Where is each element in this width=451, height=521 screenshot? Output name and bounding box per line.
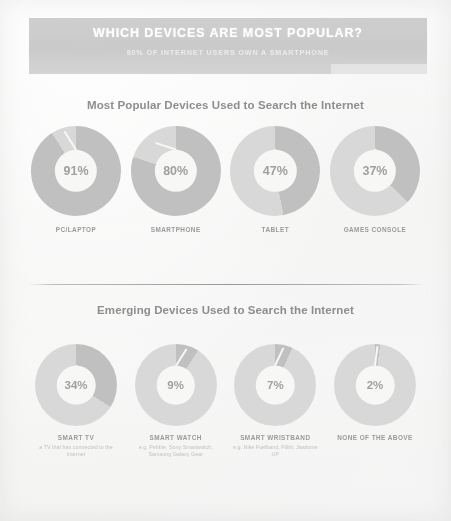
donut-center: 91%: [55, 150, 97, 192]
donut-label-smart-watch: SMART WATCH: [149, 434, 201, 441]
donut-label-games-console: GAMES CONSOLE: [344, 226, 407, 233]
donut-sublabel-smart-wristband: e.g. Nike Fuelband, Fitbit, Jawbone UP: [231, 444, 319, 458]
donut-value-label: 37%: [362, 164, 387, 178]
donut-notch: [175, 349, 187, 367]
donut-notch: [64, 131, 77, 150]
donut-cell-smartphone: 80% SMARTPHONE: [130, 126, 222, 233]
donut-cell-none-of-the-above: 2% NONE OF THE ABOVE: [329, 344, 421, 458]
donut-center: 7%: [256, 366, 295, 405]
donut-cell-pc-laptop: 91% PC/LAPTOP: [30, 126, 122, 233]
donut-label-smartphone: SMARTPHONE: [151, 226, 201, 233]
donut-cell-games-console: 37% GAMES CONSOLE: [329, 126, 421, 233]
donut-value-label: 80%: [163, 164, 188, 178]
donut-notch: [374, 346, 378, 366]
donut-center: 47%: [254, 150, 296, 192]
donut-value-label: 34%: [64, 379, 87, 391]
donut-center: 34%: [57, 366, 96, 405]
header-title: WHICH DEVICES ARE MOST POPULAR?: [29, 26, 427, 40]
donut-chart-tablet: 47%: [230, 126, 320, 216]
donut-chart-smartphone: 80%: [131, 126, 221, 216]
donut-chart-games-console: 37%: [330, 126, 420, 216]
donut-cell-tablet: 47% TABLET: [229, 126, 321, 233]
donut-value-label: 2%: [367, 379, 384, 391]
section-heading-popular: Most Popular Devices Used to Search the …: [0, 99, 451, 111]
donut-notch: [274, 347, 284, 366]
donut-value-label: 9%: [167, 379, 184, 391]
donut-chart-smart-wristband: 7%: [234, 344, 316, 426]
donut-label-none-of-the-above: NONE OF THE ABOVE: [337, 434, 413, 441]
donut-center: 80%: [155, 150, 197, 192]
donut-chart-smart-tv: 34%: [35, 344, 117, 426]
header-subtitle: 80% OF INTERNET USERS OWN A SMARTPHONE: [29, 48, 427, 57]
donut-label-smart-tv: SMART TV: [58, 434, 94, 441]
donut-value-label: 91%: [63, 164, 88, 178]
donut-center: 2%: [356, 366, 395, 405]
donut-label-smart-wristband: SMART WRISTBAND: [240, 434, 310, 441]
donut-value-label: 7%: [267, 379, 284, 391]
donut-sublabel-smart-tv: a TV that has connected to the Internet: [32, 444, 120, 458]
donut-chart-pc-laptop: 91%: [31, 126, 121, 216]
donut-center: 9%: [156, 366, 195, 405]
donut-cell-smart-watch: 9% SMART WATCH e.g. Pebble, Sony Smartwa…: [130, 344, 222, 458]
donut-row-emerging: 34% SMART TV a TV that has connected to …: [0, 344, 451, 458]
donut-row-popular: 91% PC/LAPTOP 80% SMARTPHONE 47% TABLET: [0, 126, 451, 233]
donut-cell-smart-tv: 34% SMART TV a TV that has connected to …: [30, 344, 122, 458]
donut-chart-smart-watch: 9%: [135, 344, 217, 426]
donut-sublabel-smart-watch: e.g. Pebble, Sony Smartwatch, Samsung Ga…: [132, 444, 220, 458]
donut-center: 37%: [354, 150, 396, 192]
donut-label-pc-laptop: PC/LAPTOP: [56, 226, 97, 233]
section-heading-emerging: Emerging Devices Used to Search the Inte…: [0, 304, 451, 316]
infographic-page: WHICH DEVICES ARE MOST POPULAR? 80% OF I…: [0, 0, 451, 521]
section-divider: [28, 284, 425, 285]
donut-cell-smart-wristband: 7% SMART WRISTBAND e.g. Nike Fuelband, F…: [229, 344, 321, 458]
donut-value-label: 47%: [263, 164, 288, 178]
donut-label-tablet: TABLET: [262, 226, 289, 233]
donut-chart-none-of-the-above: 2%: [334, 344, 416, 426]
